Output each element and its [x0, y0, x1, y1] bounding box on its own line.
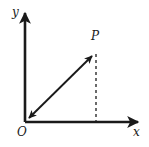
vector-diagram-figure: y x O P [0, 0, 149, 147]
point-p-label: P [91, 30, 99, 42]
x-axis-label: x [133, 126, 140, 138]
y-axis-label: y [12, 6, 19, 18]
origin-label: O [17, 126, 27, 138]
vector-op-arrow [29, 56, 92, 118]
